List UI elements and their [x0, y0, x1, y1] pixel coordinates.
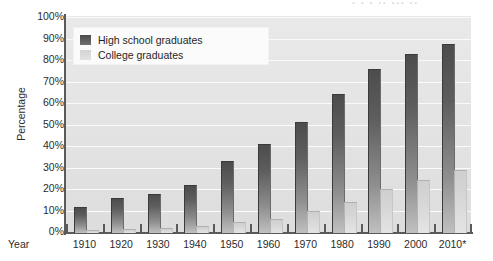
bar-college-1930 — [160, 228, 173, 233]
y-axis-title: Percentage — [15, 69, 27, 159]
y-axis-tick-label: 0% — [2, 226, 64, 237]
x-axis-end-tick — [470, 224, 472, 234]
x-axis-tick-mark — [324, 224, 326, 234]
x-axis-tick-mark — [103, 224, 105, 234]
y-axis-ticks: 0%10%20%30%40%50%60%70%80%90%100% — [0, 0, 64, 261]
bar-college-2010 — [454, 170, 467, 233]
legend-item-high-school: High school graduates — [80, 32, 262, 47]
x-axis-tick-label: 2010* — [429, 238, 477, 250]
y-axis-tick-label: 30% — [2, 162, 64, 173]
legend-item-college: College graduates — [80, 47, 262, 62]
x-axis-tick-mark — [66, 224, 68, 234]
x-axis-tick-mark — [176, 224, 178, 234]
x-axis-ticks: 1910192019301940195019601970198019902000… — [0, 238, 493, 256]
bar-college-1920 — [123, 229, 136, 233]
y-axis-tick-label: 10% — [2, 205, 64, 216]
x-axis-tick-mark — [213, 224, 215, 234]
legend-label-college: College graduates — [98, 49, 183, 61]
y-axis-tick-label: 80% — [2, 54, 64, 65]
chart-legend: High school graduates College graduates — [73, 27, 269, 65]
legend-label-high-school: High school graduates — [98, 34, 202, 46]
bar-college-2000 — [417, 180, 430, 233]
bar-high-school-1920 — [111, 198, 124, 233]
y-axis-tick-label: 20% — [2, 183, 64, 194]
y-axis-tick-label: 70% — [2, 76, 64, 87]
y-axis-tick-label: 40% — [2, 140, 64, 151]
y-axis-tick-label: 90% — [2, 33, 64, 44]
high-school-swatch-icon — [80, 35, 91, 45]
college-swatch-icon — [80, 50, 91, 60]
y-axis-line — [64, 14, 66, 235]
y-axis-tick-label: 50% — [2, 119, 64, 130]
gridline — [66, 17, 471, 18]
bar-college-1940 — [196, 226, 209, 233]
x-axis-tick-mark — [140, 224, 142, 234]
x-axis-tick-mark — [250, 224, 252, 234]
bar-college-1970 — [307, 211, 320, 234]
bar-college-1990 — [380, 189, 393, 233]
chart-figure: · · · ·· ··· ·· 0%10%20%30%40%50%60%70%8… — [0, 0, 493, 261]
y-axis-tick-label: 100% — [2, 11, 64, 22]
bar-college-1960 — [270, 219, 283, 233]
x-axis-tick-mark — [397, 224, 399, 234]
bar-college-1980 — [344, 202, 357, 233]
x-axis-tick-mark — [287, 224, 289, 234]
y-axis-tick-label: 60% — [2, 97, 64, 108]
bar-college-1950 — [233, 222, 246, 233]
bar-college-1910 — [86, 230, 99, 233]
x-axis-tick-mark — [361, 224, 363, 234]
x-axis-tick-mark — [434, 224, 436, 234]
cropped-title-fragment: · · · ·· ··· ·· — [352, 0, 487, 6]
